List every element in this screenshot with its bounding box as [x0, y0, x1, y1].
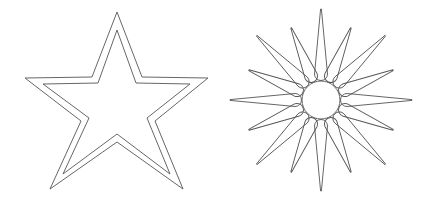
sun-center-circle [302, 81, 340, 119]
sun-ray [330, 31, 390, 91]
sun-ray [315, 9, 328, 81]
star-outer-outline [25, 12, 208, 189]
sun-ray [330, 109, 390, 169]
sun-ray [252, 31, 312, 91]
sun-ray [315, 120, 328, 192]
sun-ray [230, 94, 302, 107]
star-icon [25, 12, 208, 189]
sun-ray [341, 94, 413, 107]
sun-ray [252, 109, 312, 169]
sun-icon [230, 9, 412, 191]
drawing-canvas [0, 0, 435, 202]
drawing-svg [0, 0, 435, 202]
sun-rays [230, 9, 412, 191]
